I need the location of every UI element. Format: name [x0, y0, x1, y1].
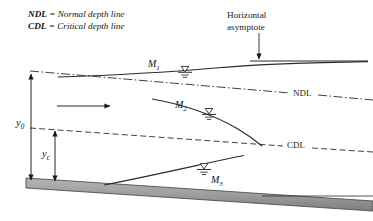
legend-block: NDL = Normal depth line CDL = Critical d… [28, 8, 125, 32]
cdl-line-left [30, 128, 283, 146]
profile-label-m1-sub: 1 [156, 64, 160, 72]
profile-label-m3-sub: 3 [219, 180, 223, 188]
m2-profile-curve [152, 99, 262, 146]
profile-label-m2: M2 [175, 99, 187, 113]
cdl-inline-label: CDL [286, 140, 306, 150]
cdl-line-right [312, 148, 373, 152]
legend-key-cdl: CDL [28, 21, 46, 31]
ndl-line-right [318, 95, 373, 100]
legend-definition-ndl: Normal depth line [58, 9, 125, 19]
m3-profile-curve [104, 156, 244, 186]
legend-row-ndl: NDL = Normal depth line [28, 8, 125, 20]
profile-label-m2-sub: 2 [183, 105, 187, 113]
legend-key-ndl: NDL [28, 9, 47, 19]
water-surface-symbol-m1 [178, 66, 192, 77]
profile-label-m3: M3 [211, 174, 223, 188]
water-surface-symbol-m2 [202, 109, 216, 120]
legend-row-cdl: CDL = Critical depth line [28, 20, 125, 32]
legend-equals-ndl: = [47, 9, 58, 19]
channel-bed [26, 178, 373, 211]
legend-definition-cdl: Critical depth line [57, 21, 124, 31]
m1-profile-curve [58, 62, 368, 77]
ndl-inline-label: NDL [292, 88, 313, 98]
ndl-line-left [30, 71, 290, 93]
figure-canvas: NDL = Normal depth line CDL = Critical d… [0, 0, 373, 221]
legend-equals-cdl: = [46, 21, 57, 31]
depth-label-y0-sub: 0 [21, 123, 25, 131]
depth-label-yc: yc [42, 148, 50, 162]
depth-label-yc-sub: c [47, 154, 50, 162]
asymptote-callout-line2: asymptote [227, 22, 266, 34]
depth-label-y0: y0 [16, 117, 24, 131]
profile-label-m1: M1 [148, 58, 160, 72]
asymptote-callout-line1: Horizontal [227, 10, 266, 22]
horizontal-asymptote-callout: Horizontal asymptote [227, 10, 266, 34]
